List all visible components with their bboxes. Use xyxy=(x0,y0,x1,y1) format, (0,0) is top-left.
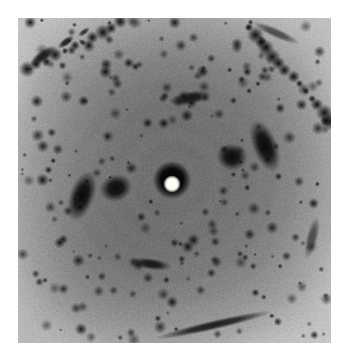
diffraction-canvas xyxy=(18,18,331,343)
diffraction-figure xyxy=(0,0,347,358)
detector-image xyxy=(18,18,331,343)
